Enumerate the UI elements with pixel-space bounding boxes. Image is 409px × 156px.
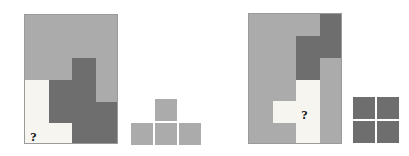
puzzle-cell — [25, 123, 49, 144]
puzzle-cell — [249, 101, 273, 123]
puzzle-cell — [49, 37, 73, 59]
puzzle-cell — [249, 58, 273, 80]
puzzle-cell — [249, 80, 273, 102]
puzzle-cell — [49, 58, 73, 80]
puzzle-cell — [320, 58, 343, 80]
option-block[interactable] — [155, 99, 177, 121]
puzzle-cell — [72, 102, 96, 124]
puzzle-cell — [96, 123, 119, 144]
left-puzzle-frame: ? — [24, 14, 118, 144]
option-block[interactable] — [131, 123, 153, 145]
puzzle-cell — [320, 14, 343, 36]
puzzle-cell — [273, 14, 297, 36]
puzzle-cell — [96, 58, 119, 80]
puzzle-cell — [273, 101, 297, 123]
puzzle-cell — [25, 80, 49, 102]
question-mark: ? — [30, 130, 37, 143]
puzzle-cell — [49, 80, 73, 102]
option-block[interactable] — [353, 121, 375, 143]
puzzle-cell — [296, 101, 320, 123]
puzzle-cell — [296, 14, 320, 36]
puzzle-cell — [96, 80, 119, 102]
puzzle-cell — [249, 123, 273, 144]
puzzle-cell — [273, 36, 297, 58]
puzzle-cell — [49, 123, 73, 144]
puzzle-cell — [249, 36, 273, 58]
puzzle-cell — [273, 58, 297, 80]
puzzle-cell — [72, 15, 96, 37]
puzzle-cell — [25, 15, 49, 37]
puzzle-cell — [96, 102, 119, 124]
puzzle-cell — [273, 80, 297, 102]
puzzle-cell — [72, 58, 96, 80]
puzzle-cell — [72, 80, 96, 102]
puzzle-cell — [249, 14, 273, 36]
option-block[interactable] — [353, 97, 375, 119]
option-block[interactable] — [155, 123, 177, 145]
puzzle-cell — [296, 58, 320, 80]
puzzle-cell — [320, 101, 343, 123]
puzzle-cell — [72, 123, 96, 144]
option-block[interactable] — [179, 123, 201, 145]
puzzle-cell — [49, 15, 73, 37]
puzzle-cell — [320, 123, 343, 144]
puzzle-cell — [296, 80, 320, 102]
puzzle-cell — [72, 37, 96, 59]
puzzle-cell — [96, 37, 119, 59]
puzzle-cell — [320, 80, 343, 102]
puzzle-cell — [96, 15, 119, 37]
option-block[interactable] — [377, 121, 399, 143]
puzzle-cell — [49, 102, 73, 124]
puzzle-cell — [25, 58, 49, 80]
puzzle-cell — [25, 102, 49, 124]
puzzle-cell — [25, 37, 49, 59]
right-puzzle-frame: ? — [248, 13, 342, 144]
option-block[interactable] — [377, 97, 399, 119]
puzzle-cell — [320, 36, 343, 58]
puzzle-cell — [296, 36, 320, 58]
puzzle-cell — [296, 123, 320, 144]
puzzle-cell — [273, 123, 297, 144]
question-mark: ? — [301, 108, 308, 121]
puzzle-canvas: ?? — [0, 0, 409, 156]
